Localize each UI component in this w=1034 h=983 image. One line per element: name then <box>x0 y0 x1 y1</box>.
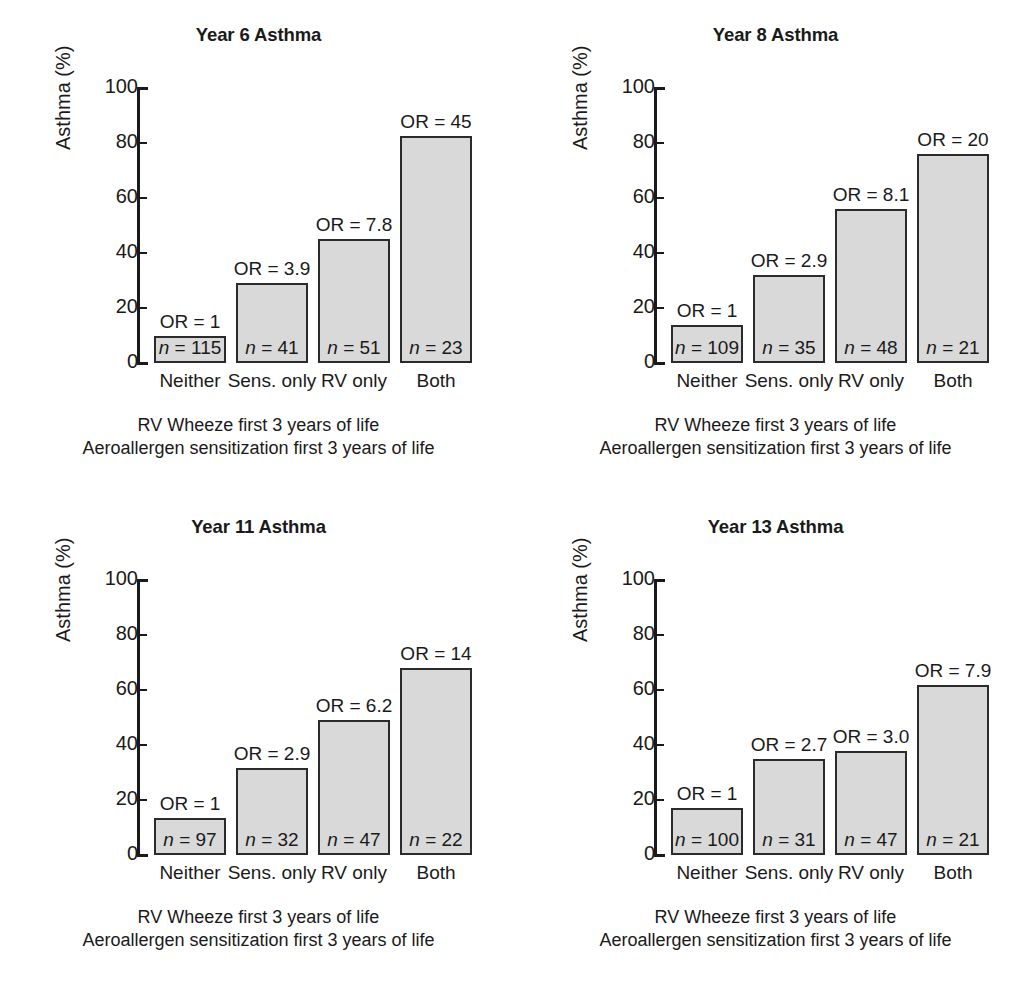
caption-line-1: RV Wheeze first 3 years of life <box>0 906 517 929</box>
y-axis-tick <box>654 362 664 364</box>
y-axis-tick <box>137 799 147 801</box>
sample-size-label: n = 115 <box>159 337 222 359</box>
y-axis-tick <box>654 854 664 856</box>
n-value: 100 <box>707 829 739 850</box>
y-axis-tick <box>654 579 664 581</box>
y-axis-label: Asthma (%) <box>52 538 75 642</box>
n-value: 31 <box>795 829 816 850</box>
y-axis-line <box>137 87 140 364</box>
chart-panel: Year 11 AsthmaAsthma (%)100806040200OR =… <box>0 492 517 983</box>
asthma-panel-figure: Year 6 AsthmaAsthma (%)100806040200OR = … <box>0 0 1034 983</box>
y-axis-tick-label: 0 <box>78 842 138 865</box>
y-axis-line <box>654 87 657 364</box>
y-axis-tick-label: 20 <box>78 787 138 810</box>
y-axis-tick <box>654 744 664 746</box>
odds-ratio-label: OR = 2.7 <box>751 734 828 756</box>
caption-line-1: RV Wheeze first 3 years of life <box>517 906 1034 929</box>
y-axis-tick <box>137 854 147 856</box>
caption-line-1: RV Wheeze first 3 years of life <box>517 414 1034 437</box>
plot-area: 100806040200OR = 1n = 115NeitherOR = 3.9… <box>146 88 475 363</box>
y-axis-tick-label: 0 <box>78 350 138 373</box>
sample-size-label: n = 109 <box>675 337 739 359</box>
n-value: 23 <box>442 337 463 358</box>
n-value: 41 <box>278 337 299 358</box>
y-axis-tick-label: 60 <box>595 677 655 700</box>
category-label: RV only <box>321 862 387 884</box>
category-label: Neither <box>159 862 220 884</box>
chart-title: Year 8 Asthma <box>517 24 1034 46</box>
y-axis-tick-label: 100 <box>595 75 655 98</box>
caption-line-2: Aeroallergen sensitization first 3 years… <box>517 929 1034 952</box>
odds-ratio-label: OR = 1 <box>160 793 221 815</box>
y-axis-tick-label: 40 <box>78 732 138 755</box>
y-axis-tick <box>137 634 147 636</box>
plot-area: 100806040200OR = 1n = 97NeitherOR = 2.9n… <box>146 580 475 855</box>
sample-size-label: n = 51 <box>327 337 380 359</box>
n-value: 35 <box>795 337 816 358</box>
bar <box>400 668 472 855</box>
plot-area: 100806040200OR = 1n = 100NeitherOR = 2.7… <box>663 580 992 855</box>
n-value: 51 <box>360 337 381 358</box>
y-axis-tick <box>654 689 664 691</box>
chart-panel: Year 6 AsthmaAsthma (%)100806040200OR = … <box>0 0 517 491</box>
y-axis-tick-label: 80 <box>78 622 138 645</box>
y-axis-tick-label: 40 <box>595 240 655 263</box>
odds-ratio-label: OR = 2.9 <box>751 250 828 272</box>
odds-ratio-label: OR = 45 <box>400 111 471 133</box>
odds-ratio-label: OR = 7.8 <box>316 214 393 236</box>
chart-title: Year 11 Asthma <box>0 516 517 538</box>
chart-title: Year 6 Asthma <box>0 24 517 46</box>
plot-area: 100806040200OR = 1n = 109NeitherOR = 2.9… <box>663 88 992 363</box>
y-axis-tick <box>137 744 147 746</box>
y-axis-label: Asthma (%) <box>52 46 75 150</box>
n-value: 47 <box>877 829 898 850</box>
category-label: Both <box>416 370 455 392</box>
y-axis-tick-label: 60 <box>595 185 655 208</box>
odds-ratio-label: OR = 1 <box>677 300 738 322</box>
chart-title: Year 13 Asthma <box>517 516 1034 538</box>
y-axis-tick-label: 80 <box>595 622 655 645</box>
sample-size-label: n = 100 <box>675 829 739 851</box>
y-axis-tick <box>654 634 664 636</box>
n-value: 32 <box>278 829 299 850</box>
caption-line-1: RV Wheeze first 3 years of life <box>0 414 517 437</box>
y-axis-tick-label: 20 <box>78 295 138 318</box>
y-axis-tick-label: 60 <box>78 677 138 700</box>
chart-panel: Year 8 AsthmaAsthma (%)100806040200OR = … <box>517 0 1034 491</box>
category-label: RV only <box>838 370 904 392</box>
sample-size-label: n = 41 <box>245 337 298 359</box>
y-axis-tick <box>654 142 664 144</box>
odds-ratio-label: OR = 8.1 <box>833 184 910 206</box>
bar <box>400 136 472 363</box>
y-axis-tick-label: 80 <box>78 130 138 153</box>
n-symbol: n <box>675 829 686 850</box>
sample-size-label: n = 47 <box>844 829 897 851</box>
category-label: Both <box>933 370 972 392</box>
n-value: 47 <box>360 829 381 850</box>
n-value: 22 <box>442 829 463 850</box>
n-symbol: n <box>762 829 773 850</box>
y-axis-tick <box>137 87 147 89</box>
sample-size-label: n = 21 <box>926 829 979 851</box>
category-label: Both <box>933 862 972 884</box>
n-symbol: n <box>762 337 773 358</box>
y-axis-tick-label: 0 <box>595 350 655 373</box>
n-value: 109 <box>707 337 739 358</box>
sample-size-label: n = 22 <box>409 829 462 851</box>
sample-size-label: n = 23 <box>409 337 462 359</box>
bar <box>917 154 989 363</box>
y-axis-tick <box>654 252 664 254</box>
y-axis-tick-label: 100 <box>78 75 138 98</box>
y-axis-line <box>137 579 140 856</box>
n-symbol: n <box>327 337 338 358</box>
sample-size-label: n = 47 <box>327 829 380 851</box>
y-axis-tick <box>137 689 147 691</box>
category-label: Sens. only <box>745 862 834 884</box>
y-axis-tick <box>137 307 147 309</box>
y-axis-tick <box>654 87 664 89</box>
y-axis-label: Asthma (%) <box>569 538 592 642</box>
y-axis-tick <box>137 142 147 144</box>
y-axis-tick <box>137 362 147 364</box>
category-label: Neither <box>159 370 220 392</box>
category-label: Neither <box>676 862 737 884</box>
